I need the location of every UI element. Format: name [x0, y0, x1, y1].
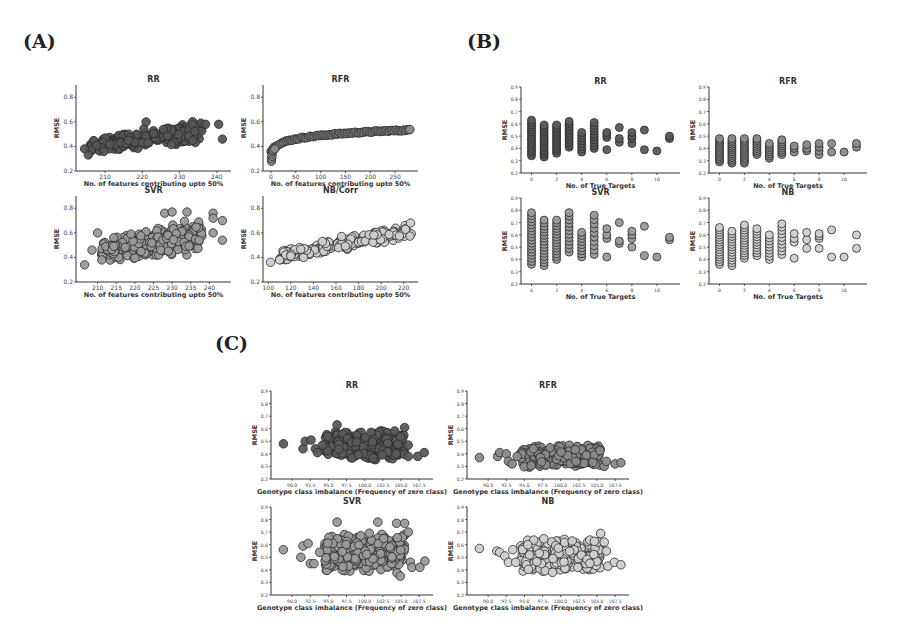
scatter-points — [267, 125, 414, 165]
subplot-b-svr: 0.20.30.40.50.60.70.80.90246810SVRNo. of… — [501, 188, 680, 301]
y-axis-label: RMSE — [689, 120, 697, 141]
scatter-points — [528, 209, 674, 270]
y-axis-label: RMSE — [251, 425, 259, 446]
y-tick-label: 0.9 — [457, 389, 464, 394]
y-tick-label: 0.3 — [511, 159, 518, 164]
subplot-b-rr: 0.20.30.40.50.60.70.80.90246810RRNo. of … — [501, 77, 680, 190]
y-axis-label: RMSE — [689, 231, 697, 252]
y-tick-label: 0.2 — [457, 477, 464, 482]
x-tick-label: 0 — [530, 288, 533, 293]
x-tick-label: 0 — [718, 288, 721, 293]
x-axis-label: No. of features contributing upto 50% — [271, 291, 411, 299]
scatter-points — [266, 219, 415, 267]
y-tick-label: 0.9 — [511, 85, 518, 90]
y-tick-label: 0.3 — [511, 270, 518, 275]
y-tick-label: 0.4 — [699, 146, 706, 151]
x-tick-label: 10 — [841, 288, 847, 293]
y-tick-label: 0.2 — [63, 167, 73, 174]
x-tick-label: 225 — [148, 284, 160, 291]
subplot-c-rr: 0.20.30.40.50.60.70.80.990.092.595.097.5… — [251, 381, 447, 496]
subplot-title: SVR — [144, 186, 162, 195]
x-tick-label: 2 — [743, 177, 746, 182]
y-axis-label: RMSE — [240, 118, 248, 139]
subplot-title: NB/Corr — [323, 186, 358, 195]
x-tick-label: 2 — [555, 177, 558, 182]
x-tick-label: 2 — [555, 288, 558, 293]
subplot-b-nb: 0.20.30.40.50.60.70.80.90246810NBNo. of … — [689, 188, 867, 301]
y-tick-label: 0.7 — [261, 414, 268, 419]
y-tick-label: 0.8 — [699, 97, 706, 102]
y-tick-label: 0.6 — [457, 543, 464, 548]
y-tick-label: 0.3 — [261, 580, 268, 585]
x-axis-label: No. of features contributing upto 50% — [84, 291, 224, 299]
subplot-a-nb-corr: 0.20.40.60.8100120140160180200220NB/Corr… — [240, 186, 418, 299]
x-tick-label: 150 — [340, 173, 352, 180]
scatter-points — [716, 135, 861, 168]
y-tick-label: 0.5 — [699, 134, 706, 139]
y-tick-label: 0.4 — [699, 257, 706, 262]
y-tick-label: 0.5 — [699, 245, 706, 250]
y-tick-label: 0.4 — [457, 452, 464, 457]
y-tick-label: 0.4 — [250, 142, 260, 149]
y-tick-label: 0.5 — [261, 439, 268, 444]
x-tick-label: 215 — [111, 284, 123, 291]
y-tick-label: 0.3 — [457, 580, 464, 585]
x-tick-label: 0 — [718, 177, 721, 182]
y-tick-label: 0.2 — [261, 593, 268, 598]
scatter-points — [279, 421, 428, 464]
x-tick-label: 10 — [654, 288, 660, 293]
y-tick-label: 0.4 — [250, 253, 260, 260]
y-tick-label: 0.6 — [511, 122, 518, 127]
y-tick-label: 0.2 — [699, 282, 706, 287]
subplot-title: SVR — [591, 188, 609, 197]
y-tick-label: 0.2 — [511, 171, 518, 176]
y-tick-label: 0.2 — [63, 278, 73, 285]
x-tick-label: 200 — [375, 284, 387, 291]
y-tick-label: 0.9 — [457, 505, 464, 510]
y-tick-label: 0.5 — [457, 555, 464, 560]
x-tick-label: 220 — [137, 173, 149, 180]
y-tick-label: 0.9 — [699, 85, 706, 90]
x-tick-label: 240 — [204, 284, 216, 291]
x-tick-label: 100 — [315, 173, 327, 180]
y-axis-label: RMSE — [251, 541, 259, 562]
x-tick-label: 210 — [99, 173, 111, 180]
x-tick-label: 50 — [292, 173, 300, 180]
y-tick-label: 0.8 — [261, 518, 268, 523]
y-tick-label: 0.2 — [250, 167, 260, 174]
y-tick-label: 0.8 — [250, 204, 260, 211]
subplot-c-nb: 0.20.30.40.50.60.70.80.990.092.595.097.5… — [447, 497, 643, 612]
subplot-title: RFR — [779, 77, 797, 86]
y-tick-label: 0.2 — [457, 593, 464, 598]
y-tick-label: 0.7 — [511, 110, 518, 115]
y-tick-label: 0.6 — [699, 122, 706, 127]
subplot-title: SVR — [343, 497, 361, 506]
x-tick-label: 160 — [330, 284, 342, 291]
y-tick-label: 0.7 — [699, 221, 706, 226]
x-tick-label: 235 — [185, 284, 197, 291]
scatter-points — [80, 208, 226, 269]
subplot-a-svr: 0.20.40.60.8210215220225230235240SVRNo. … — [53, 186, 231, 299]
y-tick-label: 0.6 — [63, 118, 73, 125]
subplot-title: NB — [542, 497, 555, 506]
x-tick-label: 120 — [285, 284, 297, 291]
y-tick-label: 0.2 — [250, 278, 260, 285]
y-tick-label: 0.9 — [261, 389, 268, 394]
subplot-c-svr: 0.20.30.40.50.60.70.80.990.092.595.097.5… — [251, 497, 447, 612]
x-tick-label: 10 — [654, 177, 660, 182]
y-axis-label: RMSE — [447, 541, 455, 562]
subplot-a-rfr: 0.20.40.60.8050100150200250RFRNo. of fea… — [240, 75, 418, 188]
scatter-points — [528, 116, 674, 161]
subplot-title: RFR — [332, 75, 350, 84]
y-axis-label: RMSE — [501, 231, 509, 252]
y-tick-label: 0.4 — [261, 568, 268, 573]
subplot-c-rfr: 0.20.30.40.50.60.70.80.990.092.595.097.5… — [447, 381, 643, 496]
y-tick-label: 0.9 — [261, 505, 268, 510]
x-tick-label: 220 — [129, 284, 141, 291]
scatter-points — [475, 441, 625, 471]
y-tick-label: 0.6 — [250, 118, 260, 125]
y-tick-label: 0.8 — [63, 93, 73, 100]
y-axis-label: RMSE — [53, 118, 61, 139]
x-tick-label: 180 — [353, 284, 365, 291]
y-tick-label: 0.4 — [511, 146, 518, 151]
